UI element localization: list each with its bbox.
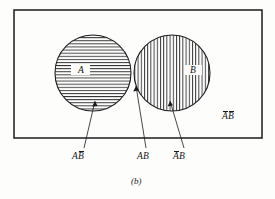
region-label-not-a-and-b-a: A: [173, 151, 179, 161]
set-label-a: A: [78, 65, 84, 75]
region-label-not-a-not-b-b: B: [228, 111, 234, 121]
figure-caption: (b): [131, 176, 142, 186]
region-label-not-a-not-b: AB: [222, 111, 234, 121]
region-label-a-and-b: AB: [137, 151, 149, 161]
region-label-a-not-b: AB: [72, 151, 84, 161]
figure-container: A B AB AB AB AB (b): [0, 0, 275, 199]
region-label-a-and-b-b: B: [143, 151, 149, 161]
set-label-b: B: [190, 65, 196, 75]
region-not-a-b-fill: [0, 0, 275, 199]
region-label-a-not-b-b: B: [78, 151, 84, 161]
region-label-not-a-and-b-b: B: [179, 151, 185, 161]
venn-diagram: [0, 0, 275, 199]
region-label-not-a-and-b: AB: [173, 151, 185, 161]
